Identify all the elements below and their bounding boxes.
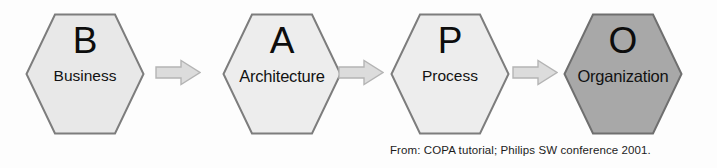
arrow-process-to-organization-icon (512, 59, 558, 86)
flow-node-organization[interactable]: O Organization (563, 13, 683, 135)
arrow-business-to-architecture-icon (155, 59, 201, 86)
flow-node-process[interactable]: P Process (390, 13, 510, 135)
hexagon-shape-process (390, 13, 510, 135)
hexagon-shape-architecture (222, 13, 342, 135)
flow-node-business[interactable]: B Business (25, 13, 145, 135)
arrow-architecture-to-process-icon (338, 59, 384, 86)
hexagon-shape-organization (563, 13, 683, 135)
source-caption: From: COPA tutorial; Philips SW conferen… (390, 144, 651, 157)
bapo-flow-diagram: B Business A Architecture (0, 0, 717, 168)
hexagon-shape-business (25, 13, 145, 135)
flow-node-architecture[interactable]: A Architecture (222, 13, 342, 135)
